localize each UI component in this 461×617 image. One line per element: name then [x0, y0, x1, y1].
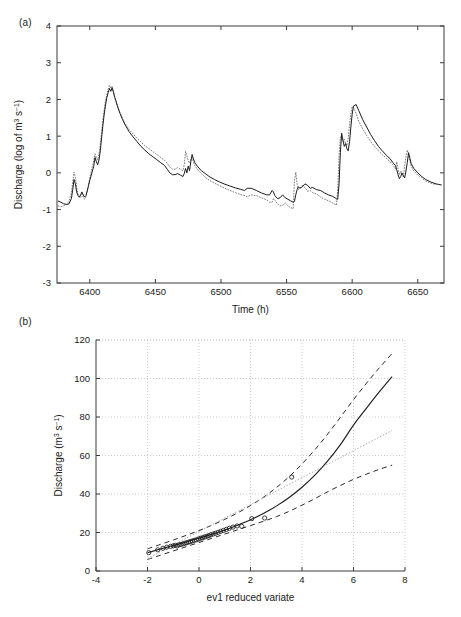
panel-b-ylabel: Discharge (m3 s−1)	[53, 414, 64, 496]
figure-svg: -3-2-101234640064506500655066006650Time …	[0, 0, 461, 617]
panel-a-yticklabel: -1	[43, 204, 51, 215]
panel-b-xticklabel: 4	[299, 574, 304, 585]
figure-container: (a) (b) -3-2-101234640064506500655066006…	[0, 0, 461, 617]
panel-b-axes	[96, 340, 405, 571]
panel-b-ylabel-text: Discharge (m3 s−1)	[53, 414, 64, 496]
panel-label-b: (b)	[19, 316, 32, 327]
panel-b-xlabel: ev1 reduced variate	[207, 592, 295, 603]
panel-a-xticklabel: 6550	[276, 286, 297, 297]
panel-b-yticklabel: 0	[85, 565, 90, 576]
panel-a-plot: -3-2-101234640064506500655066006650Time …	[13, 20, 444, 315]
panel-a-yticklabel: 3	[46, 57, 51, 68]
panel-a-yticklabel: 1	[46, 131, 51, 142]
panel-a-xticklabel: 6650	[407, 286, 428, 297]
panel-b-xticklabel: 2	[248, 574, 253, 585]
panel-b-yticklabel: 100	[74, 373, 90, 384]
panel-b-yticklabel: 20	[79, 527, 90, 538]
panel-b-curve-reference-line	[148, 430, 393, 558]
panel-a-xlabel: Time (h)	[232, 304, 269, 315]
panel-b-data-point	[240, 524, 244, 528]
panel-a-ylabel: Discharge (log of m3 s−1)	[13, 100, 24, 209]
panel-a-series-observed	[58, 88, 441, 205]
panel-b-xticklabel: 6	[351, 574, 356, 585]
panel-a-xticklabel: 6450	[145, 286, 166, 297]
panel-a-yticklabel: -3	[43, 277, 51, 288]
panel-b-yticklabel: 120	[74, 334, 90, 345]
panel-a-ylabel-text: Discharge (log of m3 s−1)	[13, 100, 24, 209]
panel-b-yticklabel: 60	[79, 450, 90, 461]
panel-b-yticklabel: 40	[79, 488, 90, 499]
panel-a-yticklabel: 4	[46, 20, 51, 31]
panel-b-plot: 020406080100120-4-202468ev1 reduced vari…	[53, 334, 408, 603]
panel-b-xticklabel: 8	[402, 574, 407, 585]
panel-a-xticklabel: 6600	[342, 286, 363, 297]
panel-label-a: (a)	[19, 17, 32, 28]
panel-a-yticklabel: -2	[43, 241, 51, 252]
panel-a-xticklabel: 6500	[210, 286, 231, 297]
panel-b-xticklabel: -4	[92, 574, 100, 585]
panel-a-yticklabel: 0	[46, 167, 51, 178]
panel-b-xticklabel: -2	[143, 574, 151, 585]
panel-b-data-points	[147, 475, 294, 555]
panel-b-data-point	[290, 475, 294, 479]
panel-b-data-point	[263, 516, 267, 520]
panel-a-yticklabel: 2	[46, 94, 51, 105]
panel-b-curve-fitted-distribution	[148, 377, 393, 553]
panel-b-xticklabel: 0	[196, 574, 201, 585]
panel-a-xticklabel: 6400	[79, 286, 100, 297]
panel-b-yticklabel: 80	[79, 411, 90, 422]
